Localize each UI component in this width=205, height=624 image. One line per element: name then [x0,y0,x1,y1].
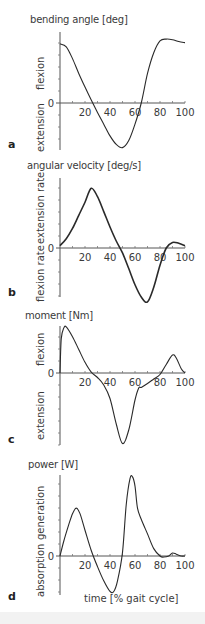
x-tick-label: 100 [175,560,194,571]
chart-d: 204060801000 [0,0,205,624]
panel-d: power [W] generation absorption d 204060… [0,0,205,624]
x-tick-label: 60 [129,560,142,571]
x-tick-label: 20 [79,560,92,571]
x-axis-label: time [% gait cycle] [84,593,178,604]
x-tick-label: 80 [154,560,167,571]
x-tick-label: 40 [104,560,117,571]
zero-label: 0 [48,551,54,562]
bottom-band [0,612,205,624]
data-curve [60,476,185,593]
